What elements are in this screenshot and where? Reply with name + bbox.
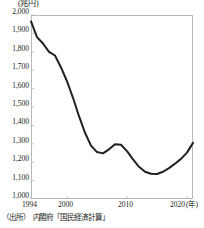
y-tick-label: 1,200	[12, 155, 29, 163]
y-tick-marks	[31, 15, 34, 181]
y-axis: 1,000 1,100 1,200 1,300 1,400 1,500 1,60…	[0, 10, 31, 204]
y-tick-label: 1,500	[12, 100, 29, 108]
x-tick-label: 2020	[170, 200, 185, 209]
x-tick-label: 2010	[118, 200, 133, 209]
y-tick-label: 1,900	[12, 26, 29, 34]
y-tick-label: 2,000	[12, 8, 29, 16]
chart-figure: (兆円) 1,000 1,100 1,200 1,300 1,400 1,500…	[0, 0, 204, 228]
x-axis: 1994 2000 2010 2020 (年)	[0, 200, 204, 212]
x-tick-label: 2000	[58, 200, 73, 209]
data-line	[31, 21, 193, 174]
y-tick-label: 1,300	[12, 137, 29, 145]
y-tick-label: 1,800	[12, 45, 29, 53]
y-tick-label: 1,100	[12, 174, 29, 182]
y-tick-label: 1,400	[12, 118, 29, 126]
y-tick-label: 1,600	[12, 82, 29, 90]
y-tick-label: 1,700	[12, 63, 29, 71]
y-tick-label: 1,000	[12, 192, 29, 200]
series-line-layer	[31, 15, 193, 199]
source-note: （出所） 内閣府「国民経済計算」	[2, 213, 108, 223]
x-tick-marks	[31, 196, 187, 199]
x-axis-unit-label: (年)	[186, 200, 198, 209]
x-tick-label: 1994	[22, 200, 37, 209]
